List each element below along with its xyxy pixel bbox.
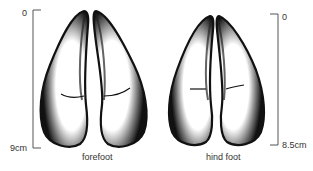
- hindfoot-scale-bottom-label: 8.5cm: [282, 140, 307, 150]
- forefoot-label: forefoot: [82, 152, 113, 162]
- hindfoot-label: hind foot: [206, 152, 241, 162]
- hindfoot-right-toe: [217, 16, 264, 145]
- track-diagram: [0, 0, 313, 171]
- forefoot-right-toe: [94, 11, 147, 147]
- hindfoot-scale-top-label: 0: [282, 12, 287, 22]
- forefoot-scale-top-label: 0: [22, 8, 27, 18]
- forefoot-scale-bar: [33, 10, 41, 148]
- forefoot-scale-bottom-label: 9cm: [10, 143, 27, 153]
- hindfoot-left-toe: [169, 16, 213, 145]
- forefoot-left-toe: [41, 11, 89, 147]
- hindfoot-scale-bar: [270, 14, 278, 145]
